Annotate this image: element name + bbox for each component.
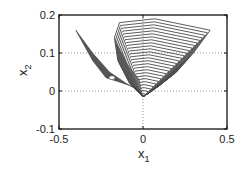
y-tick-label: 0.2 xyxy=(40,9,55,21)
fan-curve xyxy=(121,37,195,97)
left-leaf xyxy=(76,30,143,97)
x-tick-labels: -0.500.5 xyxy=(50,133,235,145)
x-tick-label: 0 xyxy=(140,133,146,145)
leaf-loop xyxy=(109,76,115,80)
y-tick-label: -0.1 xyxy=(36,123,55,135)
x-axis-label: x1 xyxy=(138,146,150,164)
x-tick-label: 0.5 xyxy=(219,133,234,145)
y-tick-label: 0.1 xyxy=(40,47,55,59)
y-tick-label: 0 xyxy=(49,85,55,97)
y-axis-label: x2 xyxy=(15,64,33,76)
phase-portrait-chart: -0.500.5 -0.100.10.2 x1 x2 xyxy=(0,0,240,172)
y-tick-labels: -0.100.10.2 xyxy=(36,9,55,135)
